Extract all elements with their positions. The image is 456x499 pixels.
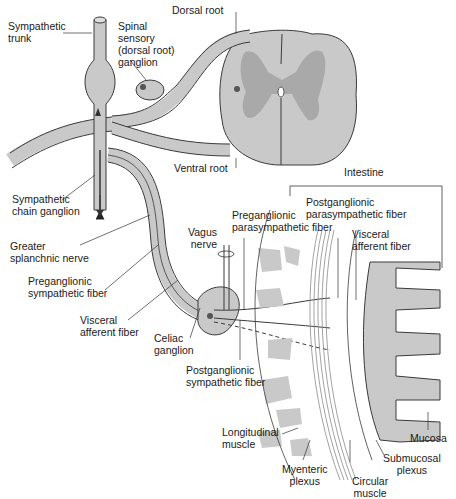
label-preganglionic-sympathetic-fiber: Preganglionic sympathetic fiber bbox=[28, 275, 107, 299]
label-postganglionic-parasympathetic-fiber: Postganglionic parasympathetic fiber bbox=[306, 196, 406, 220]
label-longitudinal-muscle: Longitudinal muscle bbox=[222, 426, 279, 450]
label-mucosa: Mucosa bbox=[410, 432, 447, 444]
label-myenteric-plexus: Myenteric plexus bbox=[282, 463, 328, 487]
label-visceral-afferent-fiber-right: Visceral afferent fiber bbox=[352, 228, 411, 252]
label-circular-muscle: Circular muscle bbox=[352, 475, 388, 499]
label-visceral-afferent-fiber-left: Visceral afferent fiber bbox=[80, 314, 139, 338]
label-intestine: Intestine bbox=[344, 166, 384, 178]
label-submucosal-plexus: Submucosal plexus bbox=[383, 452, 441, 476]
label-sympathetic-chain-ganglion: Sympathetic chain ganglion bbox=[12, 193, 80, 217]
label-vagus-nerve: Vagus nerve bbox=[188, 226, 217, 250]
label-spinal-sensory-ganglion: Spinal sensory (dorsal root) ganglion bbox=[118, 20, 175, 68]
label-sympathetic-trunk: Sympathetic trunk bbox=[8, 20, 66, 44]
spinal-cord bbox=[220, 30, 357, 165]
label-celiac-ganglion: Celiac ganglion bbox=[154, 332, 194, 356]
label-dorsal-root: Dorsal root bbox=[172, 4, 223, 16]
label-greater-splanchnic-nerve: Greater splanchnic nerve bbox=[10, 240, 89, 264]
label-postganglionic-sympathetic-fiber: Postganglionic sympathetic fiber bbox=[186, 364, 265, 388]
label-ventral-root: Ventral root bbox=[174, 162, 228, 174]
diagram-canvas: Sympathetic trunk Spinal sensory (dorsal… bbox=[0, 0, 456, 499]
longitudinal-muscle-region bbox=[256, 246, 312, 456]
